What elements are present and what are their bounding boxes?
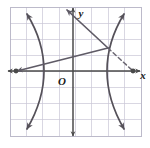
left-x-axis-point [14, 69, 19, 74]
graph-canvas: y x O [0, 0, 150, 148]
x-axis-label: x [139, 69, 146, 81]
y-axis-label: y [77, 7, 84, 19]
right-x-axis-point [131, 69, 136, 74]
hyperbola-graph-figure: y x O [0, 0, 150, 148]
origin-label: O [58, 75, 66, 87]
